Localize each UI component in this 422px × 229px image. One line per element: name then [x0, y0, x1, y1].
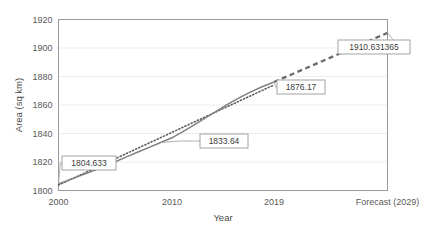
data-label-callout: 1876.17 [274, 80, 325, 94]
x-axis-tick-label: 2010 [162, 197, 182, 207]
y-axis-ticks: 1920190018801860184018201800 [32, 15, 52, 196]
callout-leader-line [59, 163, 63, 184]
callout-label: 1876.17 [286, 82, 317, 92]
x-axis-tick-label: 2000 [48, 197, 68, 207]
data-label-callout: 1804.633 [59, 156, 117, 184]
x-axis-title: Year [213, 212, 232, 223]
callout-label: 1833.64 [209, 136, 240, 146]
x-axis-ticks: 200020102019Forecast (2029) [48, 197, 419, 207]
x-axis-tick-label: 2019 [264, 197, 284, 207]
data-label-callouts: 1804.6331833.641876.171910.631365 [59, 33, 411, 184]
y-axis-tick-label: 1920 [32, 15, 52, 25]
callout-label: 1804.633 [71, 158, 107, 168]
y-axis-tick-label: 1840 [32, 129, 52, 139]
x-axis-tick-label: Forecast (2029) [356, 197, 420, 207]
y-axis-tick-label: 1860 [32, 100, 52, 110]
line-chart: 1920190018801860184018201800 20002010201… [0, 0, 422, 229]
y-axis-tick-label: 1880 [32, 72, 52, 82]
y-axis-tick-label: 1800 [32, 186, 52, 196]
y-axis-tick-label: 1900 [32, 43, 52, 53]
y-axis-title: Area (sq km) [13, 78, 24, 132]
chart-container: 1920190018801860184018201800 20002010201… [0, 0, 422, 229]
callout-label: 1910.631365 [349, 42, 399, 52]
data-label-callout: 1910.631365 [338, 33, 410, 54]
callout-leader-line [161, 141, 200, 143]
y-axis-tick-label: 1820 [32, 157, 52, 167]
